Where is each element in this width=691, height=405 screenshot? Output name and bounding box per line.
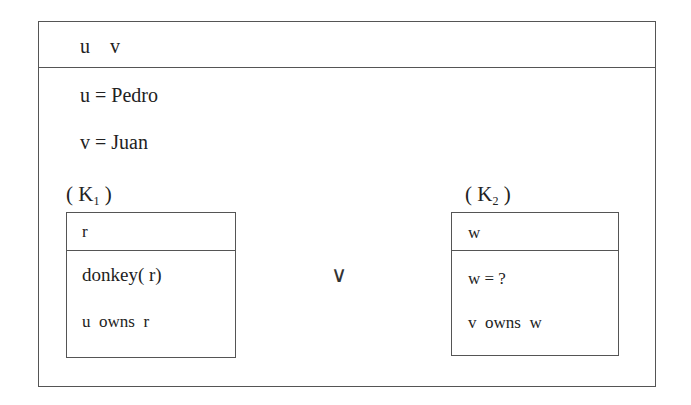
k2-condition-owns: v owns w [468,314,542,331]
condition-v-juan: v = Juan [80,132,148,152]
k1-label: ( K1 ) [66,184,112,207]
k1-label-open: ( K [66,182,93,206]
k2-universe-divider [452,250,618,251]
k1-label-close: ) [99,182,111,206]
outer-universe: u v [80,36,120,56]
k1-condition-donkey: donkey( r) [82,265,162,284]
k1-universe: r [82,223,88,240]
k1-universe-divider [67,250,235,251]
k2-universe: w [468,224,480,241]
k1-condition-owns: u owns r [82,313,149,330]
outer-universe-divider [39,67,655,68]
k2-label: ( K2 ) [465,184,511,207]
condition-u-pedro: u = Pedro [80,85,158,105]
disjunction-icon: ∨ [331,264,347,286]
k2-label-close: ) [498,182,510,206]
k1-drs-box [66,212,236,358]
k2-condition-w-unknown: w = ? [468,270,506,287]
k2-label-open: ( K [465,182,492,206]
